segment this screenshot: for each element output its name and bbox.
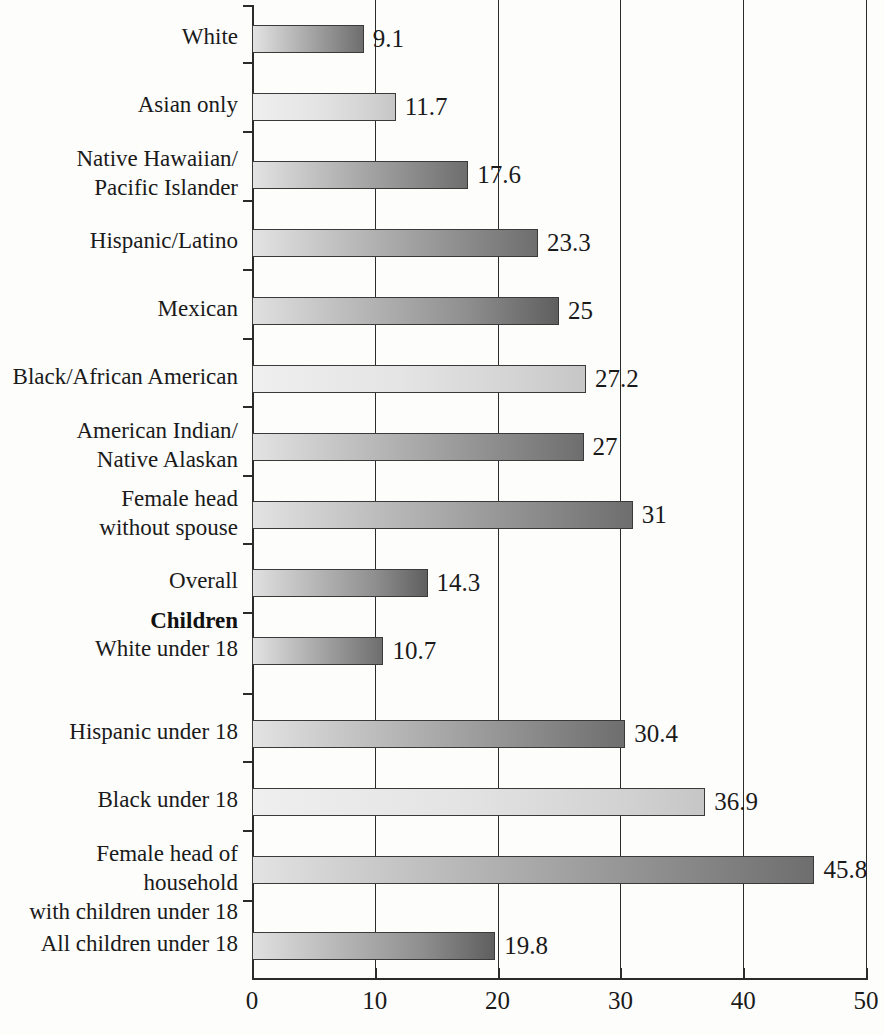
group-header-children: Children [0,606,238,635]
value-tick-label-10: 10 [345,986,405,1016]
category-tick-10 [243,693,253,695]
value-tick-30 [620,968,622,980]
value-tick-20 [498,968,500,980]
category-label-line1: Hispanic under 18 [69,719,238,744]
bar-4[interactable] [252,297,559,325]
category-label-line1: American Indian/ [76,418,238,443]
value-tick-10 [375,968,377,980]
gridline-50 [866,0,867,973]
value-tick-label-40: 40 [713,986,773,1016]
category-label-line1: All children under 18 [41,931,238,956]
bar-0[interactable] [252,25,364,53]
bar-value-label-5: 27.2 [595,365,639,393]
category-label-line2: with children under 18 [0,897,238,926]
bar-1[interactable] [252,93,396,121]
category-label-10: Hispanic under 18 [0,717,238,746]
category-label-line1: White [182,24,238,49]
category-label-line1: Black under 18 [97,787,238,812]
value-tick-label-0: 0 [222,986,282,1016]
bar-value-label-12: 45.8 [823,856,867,884]
category-tick-4 [243,269,253,271]
gridline-40 [743,0,744,973]
value-tick-40 [743,968,745,980]
category-label-line2: Native Alaskan [0,445,238,474]
category-tick-6 [243,406,253,408]
category-tick-8 [243,543,253,545]
category-tick-9 [243,612,253,614]
bar-7[interactable] [252,501,633,529]
category-label-line1: White under 18 [95,636,238,661]
category-label-line1: Female head of household [96,841,238,895]
category-label-line1: Black/African American [13,364,238,389]
category-label-line1: Female head [121,486,238,511]
bar-value-label-11: 36.9 [714,788,758,816]
category-tick-2 [243,131,253,133]
gridline-20 [498,0,499,973]
bar-6[interactable] [252,433,584,461]
bar-11[interactable] [252,788,705,816]
category-label-9: White under 18 [0,634,238,663]
bar-value-label-1: 11.7 [405,93,448,121]
value-tick-label-50: 50 [836,986,884,1016]
bar-value-label-6: 27 [593,433,618,461]
category-tick-7 [243,475,253,477]
bar-value-label-3: 23.3 [547,229,591,257]
category-tick-11 [243,761,253,763]
value-tick-50 [866,968,868,980]
category-label-7: Female headwithout spouse [0,484,238,542]
bar-5[interactable] [252,365,586,393]
bar-chart: 9.1White11.7Asian only17.6Native Hawaiia… [0,0,884,1035]
category-label-line2: Pacific Islander [0,173,238,202]
category-label-2: Native Hawaiian/Pacific Islander [0,144,238,202]
category-tick-5 [243,338,253,340]
bar-10[interactable] [252,720,625,748]
value-tick-0 [252,968,254,980]
category-label-6: American Indian/Native Alaskan [0,416,238,474]
bar-value-label-10: 30.4 [634,720,678,748]
bar-value-label-0: 9.1 [373,25,404,53]
bar-13[interactable] [252,932,495,960]
category-tick-12 [243,830,253,832]
bar-2[interactable] [252,161,468,189]
bar-12[interactable] [252,856,814,884]
gridline-30 [620,0,621,973]
category-label-line1: Asian only [138,92,238,117]
bar-value-label-9: 10.7 [392,637,436,665]
bar-value-label-4: 25 [568,297,593,325]
category-tick-13 [243,900,253,902]
bar-value-label-13: 19.8 [504,932,548,960]
value-tick-label-30: 30 [590,986,650,1016]
category-label-line1: Overall [169,568,238,593]
category-label-0: White [0,22,238,51]
bar-value-label-8: 14.3 [437,569,481,597]
bar-3[interactable] [252,229,538,257]
category-axis-line [252,5,254,980]
category-tick-1 [243,62,253,64]
category-label-line2: without spouse [0,513,238,542]
category-label-4: Mexican [0,294,238,323]
category-label-13: All children under 18 [0,929,238,958]
value-tick-label-20: 20 [468,986,528,1016]
category-label-12: Female head of householdwith children un… [0,839,238,926]
category-label-11: Black under 18 [0,785,238,814]
value-axis-line [252,978,868,980]
bar-value-label-7: 31 [642,501,667,529]
category-label-line1: Native Hawaiian/ [76,146,238,171]
category-label-1: Asian only [0,90,238,119]
gridline-10 [375,0,376,973]
category-label-8: Overall [0,566,238,595]
bar-8[interactable] [252,569,428,597]
category-label-line1: Hispanic/Latino [90,228,238,253]
category-tick-3 [243,200,253,202]
category-tick-0 [243,5,253,7]
bar-9[interactable] [252,637,383,665]
bar-value-label-2: 17.6 [477,161,521,189]
category-label-line1: Mexican [158,296,238,321]
category-label-5: Black/African American [0,362,238,391]
category-label-3: Hispanic/Latino [0,226,238,255]
